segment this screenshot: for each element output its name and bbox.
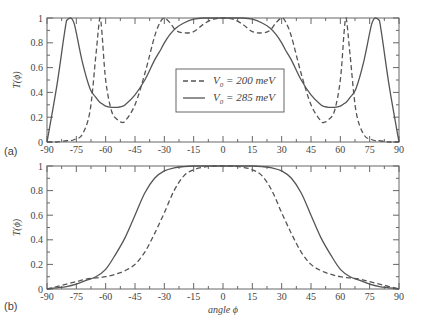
panel-b: -90-75-60-45-30-15015304560759000.20.40.… xyxy=(4,161,404,316)
x-tick-label: 75 xyxy=(365,144,375,155)
x-tick-label: 75 xyxy=(365,291,375,302)
panel-label: (b) xyxy=(4,300,17,312)
x-tick-label: 90 xyxy=(394,291,404,302)
y-tick-label: 0.6 xyxy=(31,62,44,73)
x-tick-label: 15 xyxy=(247,144,257,155)
figure: -90-75-60-45-30-15015304560759000.20.40.… xyxy=(0,0,439,329)
x-tick-label: -45 xyxy=(128,291,141,302)
y-tick-label: 0.2 xyxy=(31,259,44,270)
panel-label: (a) xyxy=(4,145,17,157)
y-tick-label: 1 xyxy=(38,161,43,172)
y-axis-label: T(ϕ) xyxy=(11,71,23,89)
x-tick-label: 0 xyxy=(221,291,226,302)
x-tick-label: -30 xyxy=(158,291,171,302)
y-tick-label: 0.2 xyxy=(31,112,44,123)
x-tick-label: -15 xyxy=(187,291,200,302)
x-tick-label: 60 xyxy=(335,291,345,302)
series-v0-200-line xyxy=(47,166,399,289)
y-tick-label: 0.8 xyxy=(31,185,44,196)
x-tick-label: -15 xyxy=(187,144,200,155)
y-axis-label: T(ϕ) xyxy=(11,218,23,236)
x-tick-label: 30 xyxy=(277,144,287,155)
x-tick-label: 45 xyxy=(306,144,316,155)
x-tick-label: 0 xyxy=(221,144,226,155)
legend: V0 = 200 meVV0 = 285 meV xyxy=(176,69,284,112)
y-tick-label: 0.6 xyxy=(31,210,44,221)
y-tick-label: 0.4 xyxy=(31,234,44,245)
x-tick-label: 15 xyxy=(247,291,257,302)
y-tick-label: 1 xyxy=(38,13,43,24)
y-tick-label: 0 xyxy=(38,137,43,148)
x-tick-label: 30 xyxy=(277,291,287,302)
x-tick-label: -75 xyxy=(70,144,83,155)
x-tick-label: -60 xyxy=(99,144,112,155)
y-tick-label: 0.8 xyxy=(31,37,44,48)
y-tick-label: 0.4 xyxy=(31,87,44,98)
series-v0-285-line xyxy=(47,166,399,289)
x-tick-label: 45 xyxy=(306,291,316,302)
x-tick-label: -45 xyxy=(128,144,141,155)
x-axis-label: angle ϕ xyxy=(208,304,238,315)
panel-a: -90-75-60-45-30-15015304560759000.20.40.… xyxy=(4,13,404,158)
x-tick-label: -75 xyxy=(70,291,83,302)
x-tick-label: -60 xyxy=(99,291,112,302)
plot-frame xyxy=(47,166,399,289)
x-tick-label: -30 xyxy=(158,144,171,155)
y-tick-label: 0 xyxy=(38,284,43,295)
x-tick-label: 90 xyxy=(394,144,404,155)
x-tick-label: 60 xyxy=(335,144,345,155)
